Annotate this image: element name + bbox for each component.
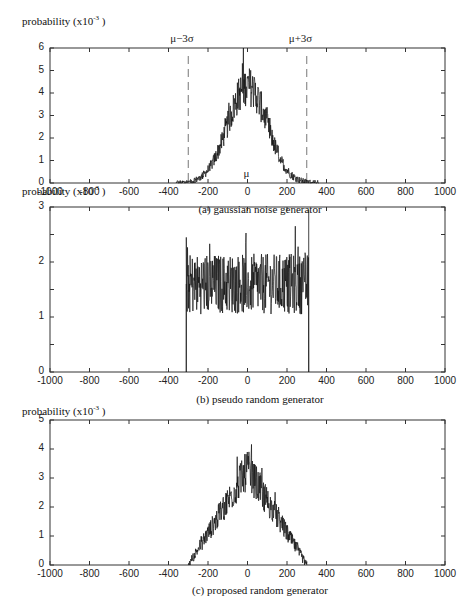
plot-frame [50, 420, 445, 565]
plot-area [0, 0, 472, 605]
x-tick-label: -800 [76, 375, 104, 386]
x-tick-label: 1000 [431, 568, 459, 579]
y-tick-label: 0 [30, 365, 44, 376]
x-tick-label: -200 [194, 568, 222, 579]
x-tick-label: 1000 [431, 186, 459, 197]
data-series [186, 226, 308, 372]
panel-caption: (c) proposed random generator [0, 584, 472, 596]
x-tick-label: -400 [155, 568, 183, 579]
y-tick-label: 1 [30, 310, 44, 321]
y-tick-label: 4 [30, 86, 44, 97]
x-tick-label: -800 [76, 568, 104, 579]
plot-area [0, 0, 472, 605]
plot-area [0, 0, 472, 605]
panel-caption: (a) gaussian noise generator [0, 203, 472, 215]
x-tick-label: -600 [115, 375, 143, 386]
y-tick-label: 2 [30, 255, 44, 266]
x-tick-label: 400 [313, 568, 341, 579]
x-tick-label: 800 [392, 375, 420, 386]
data-series [176, 48, 318, 183]
x-tick-label: 1000 [431, 375, 459, 386]
y-tick-label: 6 [30, 41, 44, 52]
x-tick-label: 0 [234, 568, 262, 579]
x-tick-label: 200 [273, 375, 301, 386]
y-tick-label: 5 [30, 413, 44, 424]
y-tick-label: 2 [30, 500, 44, 511]
x-tick-label: 200 [273, 568, 301, 579]
x-tick-label: -1000 [36, 568, 64, 579]
x-tick-label: -400 [155, 186, 183, 197]
x-tick-label: 200 [273, 186, 301, 197]
x-tick-label: 0 [234, 375, 262, 386]
y-tick-label: 3 [30, 109, 44, 120]
y-tick-label: 4 [30, 442, 44, 453]
plot-frame [50, 207, 445, 372]
x-tick-label: 400 [313, 186, 341, 197]
x-tick-label: 600 [352, 186, 380, 197]
x-tick-label: 600 [352, 568, 380, 579]
x-tick-label: -200 [194, 375, 222, 386]
x-tick-label: -200 [194, 186, 222, 197]
x-tick-label: -600 [115, 186, 143, 197]
data-series [188, 444, 307, 565]
y-tick-label: 2 [30, 131, 44, 142]
y-tick-label: 1 [30, 529, 44, 540]
x-tick-label: -400 [155, 375, 183, 386]
sigma-annotation: μ−3σ [170, 32, 194, 44]
sigma-annotation: μ+3σ [289, 32, 313, 44]
x-tick-label: -600 [115, 568, 143, 579]
plot-frame [50, 48, 445, 183]
y-axis-label: probability (x10-3 ) [22, 184, 105, 197]
y-tick-label: 0 [30, 558, 44, 569]
x-tick-label: 0 [234, 186, 262, 197]
x-tick-label: 800 [392, 568, 420, 579]
mu-annotation: μ [244, 167, 250, 179]
y-axis-label: probability (x10-3 ) [22, 14, 105, 27]
x-tick-label: 400 [313, 375, 341, 386]
y-tick-label: 5 [30, 64, 44, 75]
y-tick-label: 1 [30, 154, 44, 165]
x-tick-label: -1000 [36, 375, 64, 386]
x-tick-label: 600 [352, 375, 380, 386]
x-tick-label: 800 [392, 186, 420, 197]
y-tick-label: 3 [30, 200, 44, 211]
y-tick-label: 3 [30, 471, 44, 482]
